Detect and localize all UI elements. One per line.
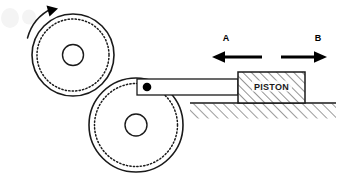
diagram-canvas: PISTON A B (0, 0, 354, 187)
direction-arrow-b: B (281, 33, 327, 63)
upper-crank-wheel (32, 14, 114, 96)
direction-b-label: B (315, 33, 322, 43)
piston-crank-diagram: PISTON A B (0, 0, 354, 187)
connecting-rod (137, 79, 238, 95)
ground-surface (190, 103, 336, 119)
piston-label: PISTON (254, 82, 289, 92)
watermark (1, 8, 36, 28)
crank-pin (143, 83, 152, 92)
direction-arrow-a: A (212, 33, 262, 63)
piston-block: PISTON (238, 72, 305, 103)
direction-a-label: A (223, 33, 230, 43)
